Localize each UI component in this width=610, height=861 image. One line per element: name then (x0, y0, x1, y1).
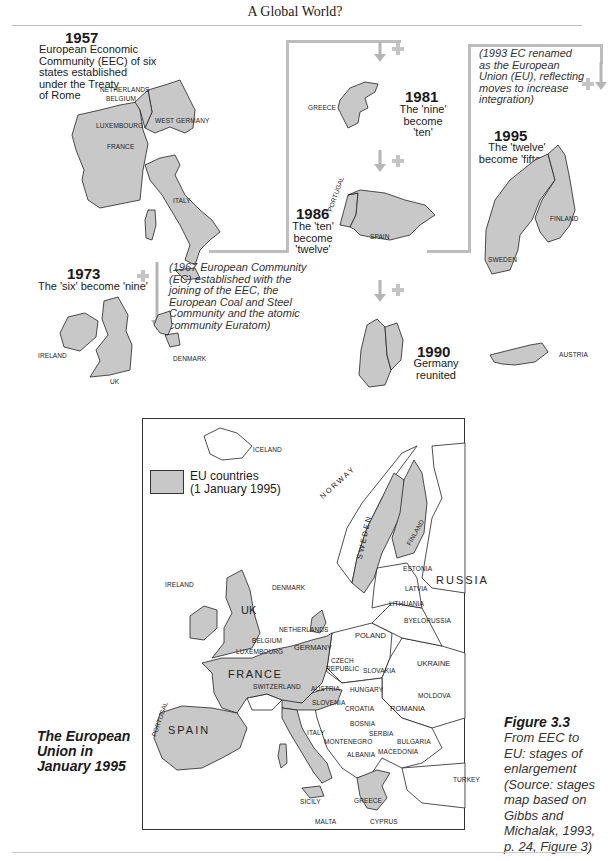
footer-rule (12, 852, 582, 853)
italy-shape (145, 155, 220, 265)
label-uk-1973: UK (110, 378, 119, 385)
map-label-ukraine: UKRAINE (417, 659, 450, 668)
map-label-romania: ROMANIA (390, 704, 425, 713)
map-label-belgium: BELGIUM (252, 637, 282, 644)
map-label-lithuania: LITHUANIA (389, 600, 424, 607)
label-netherlands-1957: NETHERLANDS (100, 86, 150, 93)
map-label-slovakia: SLOVAKIA (363, 667, 395, 674)
map-label-greece: GREECE (354, 797, 382, 804)
legend-swatch-eu (150, 470, 184, 494)
figure-caption: Figure 3.3 From EEC to EU: stages of enl… (504, 714, 595, 854)
map-label-czech-2: REPUBLIC (326, 665, 359, 672)
map-label-cyprus: CYPRUS (370, 818, 398, 825)
sicily-shape-eu (302, 786, 324, 798)
map-label-bulgaria: BULGARIA (397, 738, 431, 745)
label-sweden-1995: SWEDEN (488, 256, 517, 263)
caption-1990: Germany reunited (410, 358, 462, 381)
label-greece-1981: GREECE (308, 104, 336, 111)
label-france-1957: FRANCE (107, 143, 134, 150)
map-label-austria: AUSTRIA (311, 685, 340, 692)
label-italy-1957: ITALY (173, 197, 191, 204)
map-label-albania: ALBANIA (347, 751, 375, 758)
label-denmark-1973: DENMARK (173, 355, 206, 362)
map-label-switzerland: SWITZERLAND (253, 683, 301, 690)
france-shape (72, 102, 148, 208)
ireland-shape (60, 313, 98, 351)
label-ireland-1973: IRELAND (38, 352, 67, 359)
map-label-byelorussia: BYELORUSSIA (404, 617, 451, 624)
arrow-to-1981 (374, 42, 404, 62)
map-label-iceland: ICELAND (253, 446, 282, 453)
map-label-denmark: DENMARK (272, 584, 305, 591)
sardinia-shape (145, 210, 156, 240)
map-label-france: FRANCE (228, 668, 282, 680)
figure-number: Figure 3.3 (504, 714, 595, 730)
denmark-shape (154, 311, 180, 347)
spain-shape (348, 190, 435, 240)
map-label-malta: MALTA (315, 818, 336, 825)
label-austria-1995: AUSTRIA (559, 351, 588, 358)
map-label-spain: SPAIN (168, 724, 210, 736)
ireland-shape-eu (190, 606, 217, 640)
figure-caption-text: From EEC to EU: stages of enlargement (S… (504, 730, 595, 854)
legend-label: EU countries (1 January 1995) (190, 470, 281, 496)
map-label-luxembourg: LUXEMBOURG (236, 648, 283, 655)
label-finland-1995: FINLAND (550, 215, 579, 222)
map-label-poland: POLAND (355, 631, 386, 640)
map-label-latvia: LATVIA (405, 585, 428, 592)
map-label-italy: ITALY (307, 729, 325, 736)
map-label-turkey: TURKEY (453, 776, 480, 783)
label-luxembourg-1957: LUXEMBOURG (96, 122, 143, 129)
austria-shape (490, 343, 548, 365)
map-1973-new-members (0, 295, 200, 415)
map-label-sicily: SICILY (300, 798, 321, 805)
map-label-estonia: ESTONIA (403, 565, 432, 572)
caption-1981: The 'nine' become 'ten' (394, 104, 452, 139)
map-label-czech-1: CZECH (331, 657, 354, 664)
map-label-germany: GERMANY (294, 643, 332, 652)
greece-shape-eu (357, 770, 390, 810)
map-label-uk: UK (241, 604, 256, 616)
map-1986-iberia (330, 185, 450, 285)
map-label-ireland: IRELAND (165, 581, 194, 588)
label-spain-1986: SPAIN (370, 233, 390, 240)
map-label-hungary: HUNGARY (350, 686, 383, 693)
map-1995-nordic-austria (480, 140, 610, 400)
map-label-macedonia: MACEDONIA (378, 748, 418, 755)
iberia-shape-eu (154, 706, 247, 770)
label-west-germany-1957: WEST GERMANY (155, 117, 195, 125)
map-label-bosnia: BOSNIA (350, 720, 375, 727)
caption-1973: The 'six' become 'nine' (38, 281, 148, 293)
map-label-serbia: SERBIA (369, 730, 393, 737)
map-label-slovenia: SLOVENIA (312, 699, 345, 706)
west-germany-shape (145, 80, 195, 133)
label-belgium-1957: BELGIUM (106, 95, 136, 102)
map-label-netherlands: NETHERLANDS (279, 626, 329, 633)
map-label-croatia: CROATIA (345, 705, 374, 712)
map-label-montenegro: MONTENEGRO (324, 738, 372, 745)
map-label-moldova: MOLDOVA (418, 692, 451, 699)
iceland-shape (204, 428, 252, 460)
sardinia-shape-eu (278, 744, 287, 768)
note-1993-eu: (1993 EC renamed as the European Union (… (479, 48, 584, 106)
greece-shape (338, 82, 378, 128)
map-label-russia: RUSSIA (436, 574, 489, 586)
turkey-shape (402, 763, 465, 808)
arrow-to-1995 (582, 62, 607, 90)
map-side-title: The European Union in January 1995 (37, 729, 130, 774)
arrow-to-1986 (374, 150, 404, 172)
